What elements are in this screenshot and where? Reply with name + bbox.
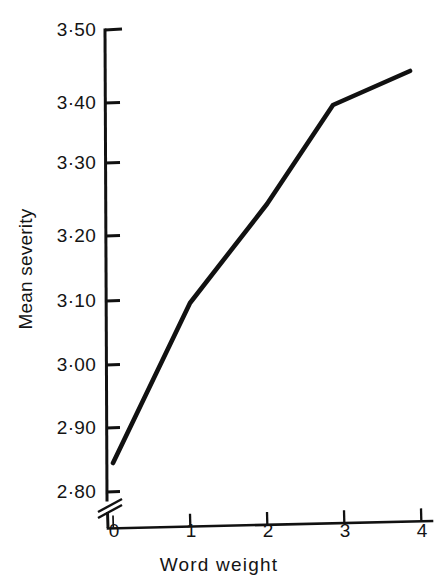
x-axis-title: Word weight	[0, 554, 438, 576]
ytick-label-340: 3·40	[57, 92, 96, 114]
xtick-label-3: 3	[340, 520, 351, 542]
chart-figure: 3·50 3·40 3·30 3·20 3·10 3·00 2·90 2·80 …	[0, 0, 438, 586]
data-series-mean-severity	[113, 71, 410, 463]
y-axis-title: Mean severity	[15, 204, 37, 334]
ytick-label-320: 3·20	[57, 225, 96, 247]
ytick-label-300: 3·00	[57, 354, 96, 376]
ytick-label-280: 2·80	[57, 481, 96, 503]
ytick-label-330: 3·30	[57, 152, 96, 174]
xtick-label-4: 4	[417, 520, 428, 542]
ytick-label-310: 3·10	[57, 290, 96, 312]
xtick-label-0: 0	[109, 520, 120, 542]
y-axis-tick-350	[105, 29, 122, 30]
ytick-label-290: 2·90	[57, 417, 96, 439]
y-axis-spine	[105, 30, 107, 500]
ytick-label-350: 3·50	[57, 19, 96, 41]
y-axis-break-slash-upper	[98, 499, 122, 512]
y-axis-break-slash-lower	[98, 505, 122, 518]
xtick-label-1: 1	[186, 520, 197, 542]
xtick-label-2: 2	[263, 520, 274, 542]
